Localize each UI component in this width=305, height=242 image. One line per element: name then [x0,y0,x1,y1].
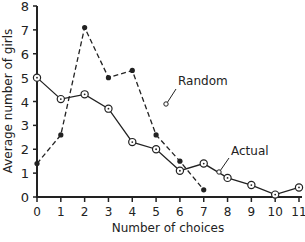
data-point-center-icon [84,93,86,95]
data-point-marker-icon [130,68,135,73]
data-point-marker-icon [153,132,158,137]
data-point-marker-icon [177,159,182,164]
random-annotation-pointer-icon [164,102,168,106]
y-tick-label: 3 [21,118,29,133]
data-point-center-icon [227,177,229,179]
x-tick-label: 0 [33,205,41,219]
data-point-marker-icon [201,187,206,192]
data-point-marker-icon [58,132,63,137]
x-tick-label: 5 [152,205,160,219]
x-tick-label: 6 [176,205,184,219]
data-point-center-icon [36,77,38,79]
data-point-center-icon [298,187,300,189]
actual-annotation-label: Actual [231,144,269,158]
data-point-center-icon [274,194,276,196]
y-tick-label: 4 [21,95,29,110]
data-point-center-icon [155,148,157,150]
x-tick-label: 7 [200,205,208,219]
y-tick-label: 8 [21,0,29,14]
random-annotation-label: Random [178,74,228,88]
data-point-center-icon [60,98,62,100]
data-point-center-icon [179,170,181,172]
random-line [37,27,204,189]
data-point-center-icon [203,163,205,165]
y-tick-label: 7 [21,23,29,38]
y-tick-label: 0 [21,190,29,205]
x-tick-label: 9 [248,205,256,219]
data-point-marker-icon [106,75,111,80]
data-point-center-icon [131,141,133,143]
x-axis-label: Number of choices [112,221,225,235]
random-annotation-leader [167,89,176,103]
axes: 01234567801234567891011 [21,0,305,219]
data-point-center-icon [108,108,110,110]
x-tick-label: 1 [57,205,65,219]
actual-annotation-leader [220,158,229,171]
y-tick-label: 5 [21,71,29,86]
y-axis-label: Average number of girls [1,29,15,174]
x-tick-label: 10 [268,205,283,219]
x-tick-label: 8 [224,205,232,219]
x-tick-label: 2 [81,205,89,219]
data-point-center-icon [250,184,252,186]
data-point-marker-icon [34,161,39,166]
series-actual [33,74,302,198]
y-tick-label: 1 [21,166,29,181]
actual-line [37,78,299,195]
data-point-marker-icon [82,25,87,30]
x-tick-label: 11 [291,205,305,219]
y-tick-label: 2 [21,142,29,157]
x-tick-label: 3 [105,205,113,219]
y-tick-label: 6 [21,47,29,62]
actual-annotation-pointer-icon [217,170,221,174]
line-chart: 01234567801234567891011 Random Actual Nu… [0,0,305,242]
x-tick-label: 4 [128,205,136,219]
